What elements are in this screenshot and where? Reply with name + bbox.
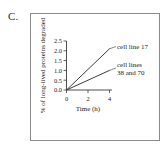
y-axis-title: % of long-lived proteins degraded <box>39 17 47 113</box>
y-tick-label-3: 1.5 <box>54 57 62 64</box>
x-tick-label-1: 2 <box>86 95 89 102</box>
series-line-cell-lines-38-and-70 <box>67 70 110 90</box>
y-tick-label-1: 0.5 <box>54 77 62 84</box>
y-tick-label-5: 2.5 <box>54 37 62 44</box>
leader-line-cell-lines-38-and-70 <box>110 68 117 70</box>
figure-panel-c: C. 2.5 2.0 1.5 1.0 0.5 0.0 0 2 4 Time (h… <box>0 0 166 149</box>
x-axis-title: Time (h) <box>76 105 101 113</box>
leader-line-cell-line-17 <box>110 47 117 49</box>
x-tick-label-2: 4 <box>108 95 112 102</box>
y-tick-label-2: 1.0 <box>54 67 62 74</box>
y-tick-label-0: 0.0 <box>54 86 62 93</box>
series-label-cell-line-17: cell line 17 <box>117 43 149 51</box>
y-tick-label-4: 2.0 <box>54 47 62 54</box>
series-label-cell-lines-line2: 38 and 70 <box>117 69 145 77</box>
series-label-cell-lines-line1: cell lines <box>117 61 142 69</box>
series-line-cell-line-17 <box>67 49 110 90</box>
x-tick-label-0: 0 <box>65 95 68 102</box>
chart-plot: 2.5 2.0 1.5 1.0 0.5 0.0 0 2 4 Time (h) %… <box>0 0 166 149</box>
